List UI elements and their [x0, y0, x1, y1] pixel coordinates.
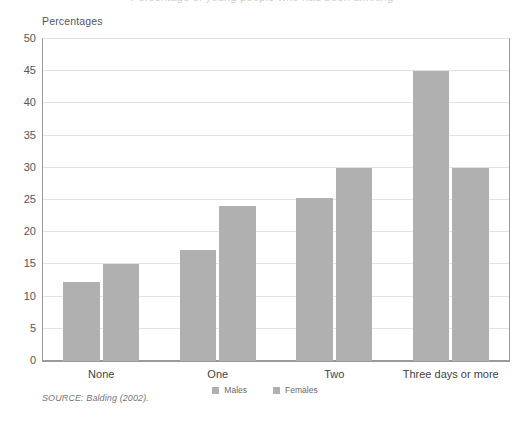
- bar-females-0: [103, 264, 140, 361]
- x-axis-category-label: None: [43, 368, 160, 380]
- source-note: SOURCE: Balding (2002).: [42, 393, 149, 403]
- legend-swatch-icon: [273, 387, 280, 394]
- legend-label: Females: [285, 385, 318, 395]
- bar-females-1: [219, 206, 256, 361]
- bar-males-1: [180, 250, 217, 361]
- x-axis-category-label: One: [160, 368, 277, 380]
- y-axis-tick-label: 30: [8, 161, 36, 173]
- x-axis-category-label: Two: [276, 368, 393, 380]
- y-axis-tick-label: 20: [8, 225, 36, 237]
- legend-item-females: Females: [273, 385, 318, 395]
- y-axis-tick-label: 45: [8, 64, 36, 76]
- y-axis-tick-label: 0: [8, 354, 36, 366]
- clipped-figure-title: Percentage of young people who had been …: [42, 0, 482, 3]
- bar-females-2: [336, 168, 373, 361]
- plot-area: [43, 39, 509, 361]
- y-axis-tick-label: 50: [8, 32, 36, 44]
- plot-frame: [42, 38, 510, 362]
- bar-males-0: [63, 282, 100, 361]
- bar-females-3: [452, 168, 489, 361]
- gridline: [43, 38, 509, 39]
- x-axis-category-label: Three days or more: [393, 368, 510, 380]
- y-axis-tick-label: 40: [8, 96, 36, 108]
- y-axis-tick-label: 35: [8, 129, 36, 141]
- figure-container: Percentage of young people who had been …: [0, 0, 530, 427]
- legend-swatch-icon: [212, 387, 219, 394]
- y-axis-tick-label: 15: [8, 257, 36, 269]
- y-axis-unit-label: Percentages: [42, 15, 103, 27]
- legend-label: Males: [224, 385, 247, 395]
- y-axis-tick-label: 25: [8, 193, 36, 205]
- legend-item-males: Males: [212, 385, 247, 395]
- bar-males-3: [413, 71, 450, 361]
- y-axis-tick-label: 10: [8, 290, 36, 302]
- y-axis-tick-label: 5: [8, 322, 36, 334]
- bar-males-2: [296, 198, 333, 361]
